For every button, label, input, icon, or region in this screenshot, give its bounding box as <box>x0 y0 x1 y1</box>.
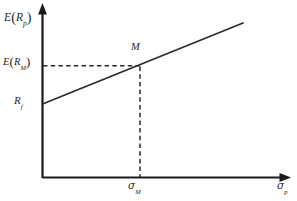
market-return-label: E(RM) <box>3 55 30 68</box>
y-axis-label-close-paren: ) <box>27 9 32 25</box>
y-axis-arrow-icon <box>38 3 47 15</box>
capital-market-line <box>43 23 244 104</box>
cml-figure: E(Rp) E(RM) Rf M σM σp <box>0 0 297 201</box>
market-risk-label: σM <box>128 180 141 192</box>
market-return-label-open-paren: ( <box>10 55 14 69</box>
market-return-label-close-paren: ) <box>26 55 30 69</box>
y-axis-label-r: R <box>16 11 23 23</box>
y-axis-label: E(Rp) <box>4 9 32 24</box>
x-axis-label: σp <box>277 180 288 192</box>
market-portfolio-label: M <box>131 42 140 53</box>
x-axis-label-subscript: p <box>284 188 287 195</box>
market-return-label-e: E <box>3 56 10 67</box>
risk-free-rate-label-r: R <box>14 94 21 106</box>
risk-free-rate-label: Rf <box>14 95 23 106</box>
figure-canvas <box>0 0 297 201</box>
market-risk-label-subscript: M <box>135 188 141 195</box>
risk-free-rate-label-subscript: f <box>21 103 23 110</box>
y-axis-label-open-paren: ( <box>11 9 16 25</box>
